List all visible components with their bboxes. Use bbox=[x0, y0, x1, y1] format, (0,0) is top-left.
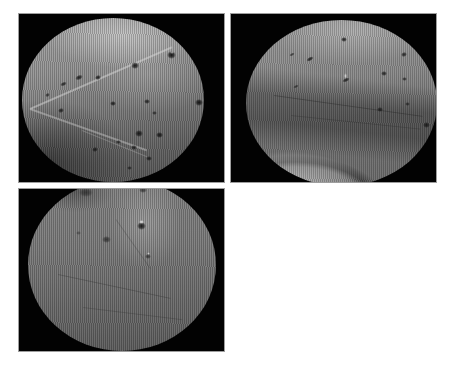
tissue-fold-line bbox=[30, 46, 173, 110]
lesion-spot bbox=[102, 236, 111, 243]
figure-collage bbox=[0, 0, 449, 368]
lesion-spot bbox=[156, 132, 163, 138]
lesion-spot bbox=[131, 62, 139, 69]
lesion-spot bbox=[139, 188, 147, 193]
lesion-spot bbox=[152, 111, 157, 115]
lesion-spot bbox=[400, 51, 407, 58]
lesion-spot bbox=[135, 130, 143, 137]
lesion-spot bbox=[293, 83, 300, 88]
lesion-spot bbox=[381, 71, 387, 76]
lesion-spot bbox=[377, 107, 383, 112]
lesion-spot bbox=[59, 81, 67, 88]
lesion-spot bbox=[423, 122, 430, 128]
lesion-spot bbox=[91, 146, 98, 152]
lesion-spot bbox=[116, 140, 121, 144]
tissue-fold-line bbox=[116, 219, 151, 269]
lesion-spot bbox=[195, 99, 203, 106]
tissue-fold-line bbox=[83, 307, 182, 320]
lesion-spot bbox=[144, 99, 150, 104]
lesion-spot bbox=[186, 145, 192, 150]
specular-highlight bbox=[170, 51, 174, 54]
endoscopic-frame-top-right-circular-field bbox=[246, 20, 437, 183]
lesion-spot bbox=[289, 51, 296, 57]
lesion-spot bbox=[306, 55, 315, 62]
endoscopic-frame-top-left-circular-field bbox=[22, 18, 204, 182]
lesion-spot bbox=[341, 37, 347, 42]
tissue-fold-line bbox=[291, 115, 420, 130]
lesion-spot bbox=[110, 101, 116, 106]
specular-highlight bbox=[344, 73, 347, 79]
endoscopic-frame-top-right bbox=[230, 13, 437, 183]
endoscopic-frame-top-left bbox=[18, 13, 225, 183]
tissue-fold-line bbox=[274, 95, 423, 117]
lesion-spot bbox=[74, 73, 83, 81]
specular-highlight bbox=[147, 252, 150, 255]
lesion-spot bbox=[146, 156, 152, 161]
lesion-spot bbox=[127, 166, 132, 170]
lesion-spot bbox=[405, 102, 410, 106]
specular-highlight bbox=[139, 220, 144, 224]
lesion-spot bbox=[57, 107, 64, 114]
endoscopic-frame-bottom-left bbox=[18, 188, 225, 352]
tissue-fold-line bbox=[58, 274, 171, 299]
endoscopic-frame-bottom-left-circular-field bbox=[28, 188, 216, 351]
lesion-spot bbox=[402, 77, 407, 81]
lesion-spot bbox=[76, 231, 81, 235]
specular-highlight bbox=[53, 28, 65, 33]
lesion-spot bbox=[79, 188, 93, 197]
lesion-spot bbox=[44, 92, 50, 98]
lesion-spot bbox=[131, 145, 137, 150]
tissue-fold-line bbox=[30, 108, 148, 151]
lesion-spot bbox=[196, 130, 203, 136]
